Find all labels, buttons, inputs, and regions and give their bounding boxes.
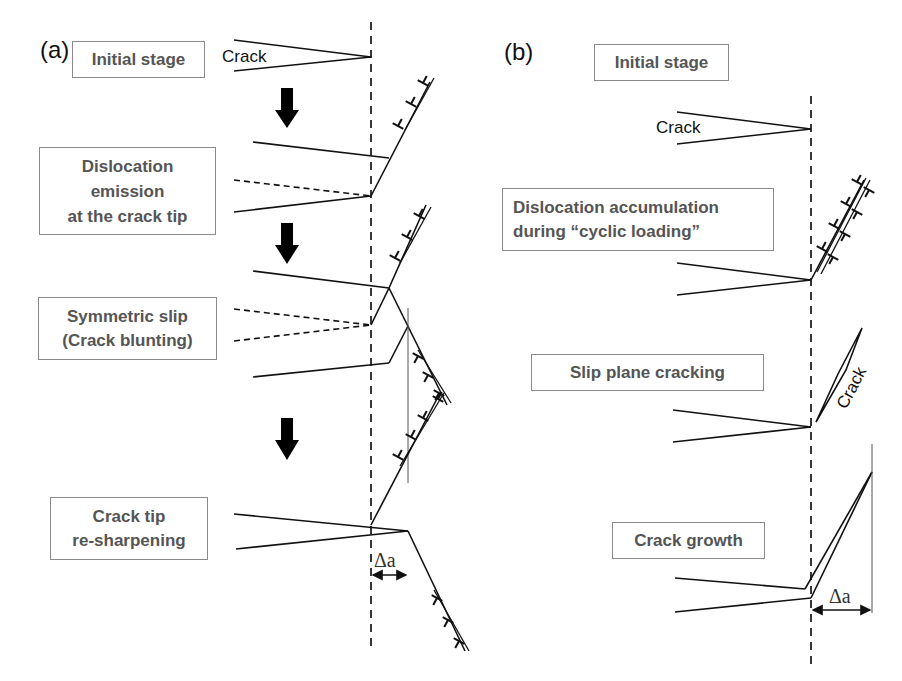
panel-b-accumulation-crack [677,180,864,295]
panel-b-crack-label: Crack [656,118,701,137]
panel-a-resharpened-slip-double-lines [400,393,469,651]
crack-diagram-graphics: Crack [0,0,902,681]
panel-a-resharpened-crack [234,393,465,651]
panel-a-down-arrow-3 [275,418,299,460]
panel-a-emission-dislocations [393,73,432,129]
panel-b-delta-a-label: Δa [829,585,851,607]
panel-b-slip-cracking-crack [673,328,862,442]
panel-a-delta-a-label: Δa [374,549,396,571]
panel-b-rotated-crack-label: Crack [833,363,871,412]
panel-b-accumulation-slip-lines [817,178,870,274]
panel-a-down-arrow-2 [275,223,299,264]
panel-a-resharpened-dislocations [393,389,465,651]
panel-a-emission-crack [234,78,434,212]
panel-a-crack-label: Crack [222,47,267,66]
panel-a-down-arrow-1 [275,88,299,128]
